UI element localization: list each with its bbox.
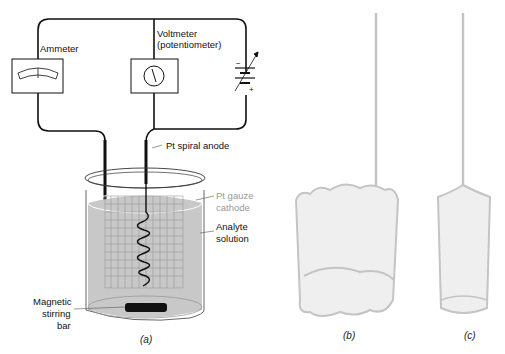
wide-gauze-electrode-icon	[296, 13, 398, 316]
caption-c: (c)	[464, 330, 476, 341]
battery-plus-label: +	[249, 84, 254, 95]
cathode-label: Pt gauze	[216, 190, 254, 201]
voltmeter-sublabel: (potentiometer)	[157, 39, 221, 50]
stir-bar-label-1: Magnetic	[33, 296, 72, 307]
caption-a: (a)	[140, 334, 152, 345]
ammeter-label: Ammeter	[40, 43, 79, 54]
stir-bar-label-2: stirring	[42, 308, 71, 319]
stir-bar-label-3: bar	[57, 320, 71, 331]
beaker-icon	[85, 168, 205, 320]
voltmeter-label: Voltmeter	[157, 28, 197, 39]
battery-minus-label: −	[236, 58, 241, 69]
analyte-label: Analyte	[216, 221, 248, 232]
ammeter-icon	[12, 59, 63, 93]
voltmeter-icon	[131, 59, 178, 93]
caption-b: (b)	[343, 330, 355, 341]
anode-label: Pt spiral anode	[166, 140, 229, 151]
narrow-gauze-electrode-icon	[438, 13, 490, 313]
cathode-sublabel: cathode	[216, 202, 250, 213]
analyte-sublabel: solution	[216, 233, 249, 244]
